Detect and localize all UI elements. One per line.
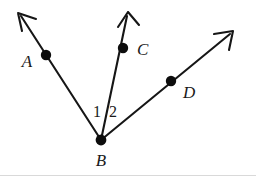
angle-diagram-figure: A C D B 1 2 xyxy=(0,0,256,178)
point-a-dot xyxy=(41,50,51,60)
point-a-label: A xyxy=(21,52,33,71)
ray-bc-arrowhead xyxy=(118,12,139,27)
point-c-dot xyxy=(118,43,128,53)
point-c-label: C xyxy=(137,40,149,59)
ray-bc xyxy=(101,12,139,140)
ray-ba xyxy=(18,13,101,140)
angle-1-label: 1 xyxy=(93,103,101,120)
point-d-dot xyxy=(166,76,176,86)
point-b-vertex-dot xyxy=(96,135,107,146)
point-b-label: B xyxy=(96,151,107,170)
diagram-canvas: A C D B 1 2 xyxy=(0,0,256,178)
point-d-label: D xyxy=(182,83,196,102)
ray-ba-line xyxy=(21,16,101,140)
angle-2-label: 2 xyxy=(109,103,117,120)
